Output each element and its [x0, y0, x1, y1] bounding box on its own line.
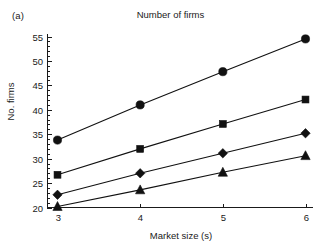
data-point-diamond: [53, 190, 62, 199]
y-axis-tick-label: 35: [32, 129, 43, 140]
data-point-diamond: [301, 129, 310, 138]
data-point-square: [302, 96, 309, 103]
data-point-triangle: [301, 151, 310, 160]
y-axis-tick-label: 20: [32, 203, 43, 214]
data-point-circle: [219, 68, 227, 76]
data-point-square: [54, 171, 61, 178]
y-axis-tick-label: 40: [32, 105, 43, 116]
line-chart-plot: 20253035404550553456: [0, 0, 319, 252]
x-axis-tick-label: 6: [304, 212, 309, 223]
x-axis-tick-label: 3: [56, 212, 61, 223]
y-axis-tick-label: 30: [32, 154, 43, 165]
figure-panel: (a) Number of firms No. firms Market siz…: [0, 0, 319, 252]
data-point-diamond: [135, 169, 144, 178]
data-point-circle: [53, 136, 61, 144]
x-axis-tick-label: 4: [138, 212, 143, 223]
y-axis-tick-label: 45: [32, 80, 43, 91]
data-point-diamond: [218, 149, 227, 158]
data-point-square: [137, 145, 144, 152]
x-axis-tick-label: 5: [221, 212, 226, 223]
data-point-circle: [301, 35, 309, 43]
y-axis-tick-label: 55: [32, 32, 43, 43]
y-axis-tick-label: 25: [32, 178, 43, 189]
data-point-circle: [136, 101, 144, 109]
y-axis-tick-label: 50: [32, 56, 43, 67]
series-line-circle: [58, 39, 306, 140]
series-line-diamond: [58, 133, 306, 195]
data-point-square: [219, 121, 226, 128]
